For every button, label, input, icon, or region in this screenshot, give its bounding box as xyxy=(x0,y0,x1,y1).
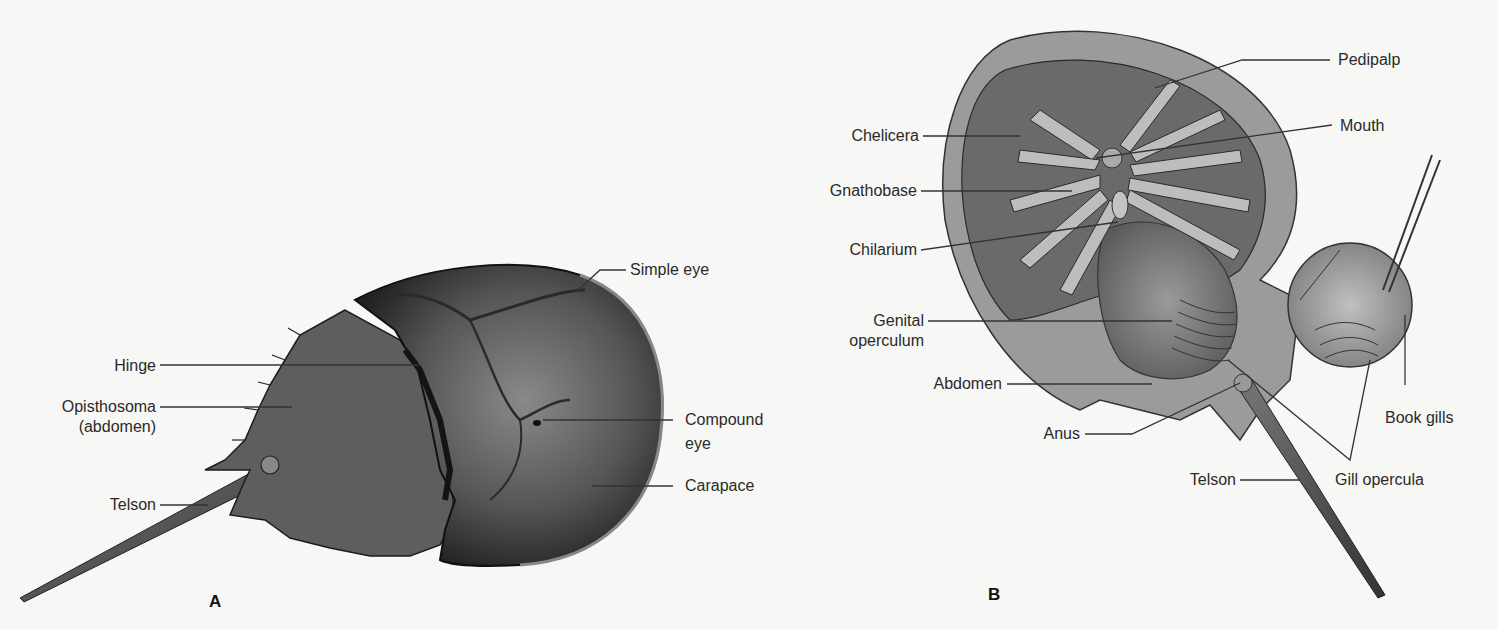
label-opisthosoma: Opisthosoma xyxy=(40,397,156,416)
label-chilarium: Chilarium xyxy=(800,240,917,259)
illustration xyxy=(0,0,1498,630)
label-simple-eye: Simple eye xyxy=(630,260,709,279)
label-chelicera: Chelicera xyxy=(800,126,919,145)
label-opisthosoma-abdomen: (abdomen) xyxy=(40,417,156,436)
label-genital-operculum-2: operculum xyxy=(800,331,924,350)
label-genital-operculum: Genital xyxy=(800,311,924,330)
label-compound-eye: Compound xyxy=(685,410,763,429)
label-book-gills: Book gills xyxy=(1385,408,1453,427)
label-telson-a: Telson xyxy=(80,495,156,514)
panel-letter-a: A xyxy=(209,592,221,612)
label-telson-b: Telson xyxy=(1150,470,1236,489)
label-pedipalp: Pedipalp xyxy=(1338,50,1400,69)
panel-letter-b: B xyxy=(988,585,1000,605)
figure: Hinge Opisthosoma (abdomen) Telson Simpl… xyxy=(0,0,1498,630)
label-gnathobase: Gnathobase xyxy=(790,181,917,200)
label-anus: Anus xyxy=(1000,424,1080,443)
label-abdomen: Abdomen xyxy=(880,374,1002,393)
label-compound-eye-2: eye xyxy=(685,434,711,453)
label-carapace: Carapace xyxy=(685,476,754,495)
label-gill-opercula: Gill opercula xyxy=(1335,470,1424,489)
label-mouth: Mouth xyxy=(1340,116,1384,135)
label-hinge: Hinge xyxy=(90,356,156,375)
